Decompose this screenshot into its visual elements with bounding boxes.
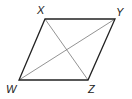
vertex-label-y: Y [116,6,124,18]
diagonal-wy [19,19,115,80]
vertex-label-z: Z [87,83,96,95]
diagonals [19,19,115,80]
vertex-label-w: W [6,83,18,95]
parallelogram-diagram: X Y Z W [0,0,132,99]
vertex-label-x: X [36,4,45,16]
